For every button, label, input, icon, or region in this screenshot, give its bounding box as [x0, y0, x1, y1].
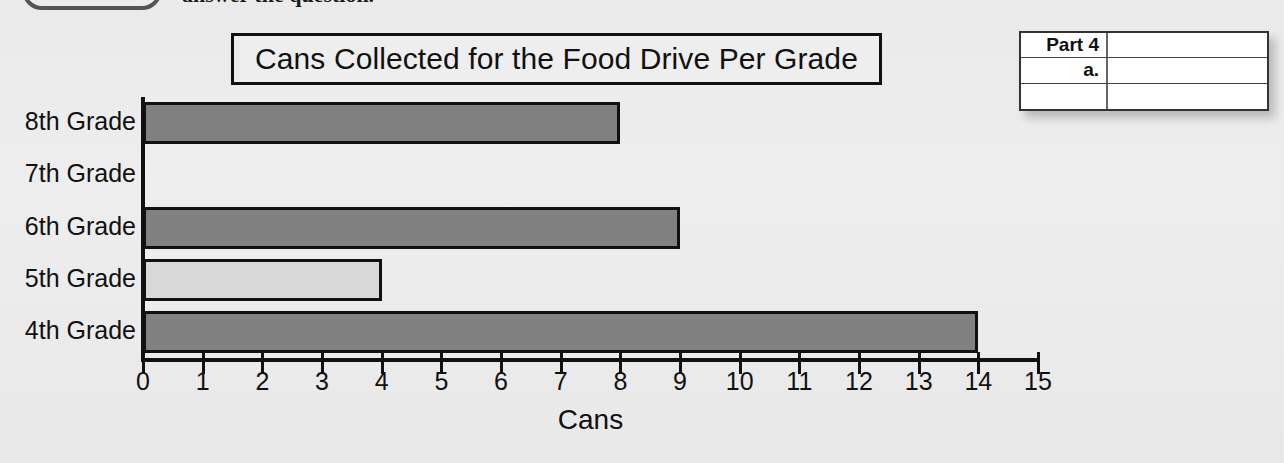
- chart-title-box: Cans Collected for the Food Drive Per Gr…: [231, 33, 882, 85]
- bar-6th-grade: [143, 207, 680, 249]
- x-tick-label-6: 6: [481, 367, 521, 396]
- bar-5th-grade: [143, 259, 382, 301]
- category-label-7th-grade: 7th Grade: [8, 159, 136, 188]
- x-tick-label-3: 3: [302, 367, 342, 396]
- x-tick-label-7: 7: [541, 367, 581, 396]
- table-row: Part 4: [1021, 33, 1267, 58]
- x-tick-label-2: 2: [242, 367, 282, 396]
- part-label: [1021, 84, 1108, 109]
- x-tick-label-0: 0: [123, 367, 163, 396]
- bar-4th-grade: [143, 311, 978, 353]
- bar-chart: Cans Collected for the Food Drive Per Gr…: [0, 0, 1010, 463]
- x-tick-label-12: 12: [839, 367, 879, 396]
- x-tick-label-9: 9: [660, 367, 700, 396]
- part-answer-cell[interactable]: [1108, 84, 1267, 109]
- x-tick-label-8: 8: [600, 367, 640, 396]
- category-label-5th-grade: 5th Grade: [8, 264, 136, 293]
- x-tick-label-10: 10: [720, 367, 760, 396]
- bar-8th-grade: [143, 102, 620, 144]
- part-answer-box: Part 4 a.: [1019, 31, 1269, 111]
- x-tick-label-4: 4: [362, 367, 402, 396]
- x-axis-line: [143, 358, 1038, 362]
- x-tick-label-15: 15: [1018, 367, 1058, 396]
- category-label-4th-grade: 4th Grade: [8, 316, 136, 345]
- category-axis-labels: 8th Grade7th Grade6th Grade5th Grade4th …: [0, 0, 136, 463]
- part-answer-cell[interactable]: [1108, 58, 1267, 82]
- x-tick-label-5: 5: [421, 367, 461, 396]
- chart-title: Cans Collected for the Food Drive Per Gr…: [255, 42, 858, 76]
- part-answer-cell[interactable]: [1108, 33, 1267, 57]
- part-label: a.: [1021, 58, 1108, 82]
- x-axis-title: Cans: [143, 404, 1038, 436]
- x-tick-label-13: 13: [899, 367, 939, 396]
- x-tick-label-14: 14: [958, 367, 998, 396]
- table-row: a.: [1021, 58, 1267, 83]
- table-row: [1021, 84, 1267, 109]
- category-label-8th-grade: 8th Grade: [8, 107, 136, 136]
- part-label: Part 4: [1021, 33, 1108, 57]
- x-tick-label-1: 1: [183, 367, 223, 396]
- category-label-6th-grade: 6th Grade: [8, 212, 136, 241]
- x-tick-label-11: 11: [779, 367, 819, 396]
